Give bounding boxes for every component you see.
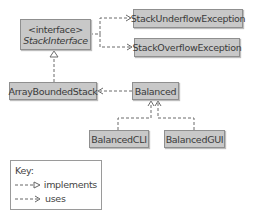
- legend-uses: uses: [15, 192, 97, 206]
- node-stack-overflow-exception[interactable]: StackOverflowException: [134, 38, 240, 57]
- node-label: BalancedGUI: [166, 134, 224, 145]
- legend-title: Key:: [15, 164, 97, 178]
- legend-implements: implements: [15, 178, 97, 192]
- node-label: StackUnderflowException: [131, 13, 245, 24]
- implements-arrow-icon: [15, 181, 40, 189]
- node-label: ArrayBoundedStack: [8, 86, 97, 97]
- legend-uses-label: uses: [45, 192, 66, 206]
- legend-implements-label: implements: [44, 178, 97, 192]
- node-label: Balanced: [135, 86, 177, 97]
- node-stack-underflow-exception[interactable]: StackUnderflowException: [133, 9, 243, 28]
- node-balanced[interactable]: Balanced: [132, 82, 179, 100]
- node-array-bounded-stack[interactable]: ArrayBoundedStack: [9, 82, 97, 100]
- node-balanced-gui[interactable]: BalancedGUI: [164, 130, 225, 148]
- node-label: StackInterface: [23, 35, 88, 46]
- stereotype-label: <interface>: [28, 24, 83, 35]
- node-label: BalancedCLI: [91, 134, 146, 145]
- uses-arrow-icon: [15, 195, 41, 203]
- legend-key: Key: implements uses: [10, 160, 102, 210]
- node-balanced-cli[interactable]: BalancedCLI: [89, 130, 149, 148]
- node-stack-interface[interactable]: <interface> StackInterface: [20, 19, 91, 50]
- node-label: StackOverflowException: [133, 42, 242, 53]
